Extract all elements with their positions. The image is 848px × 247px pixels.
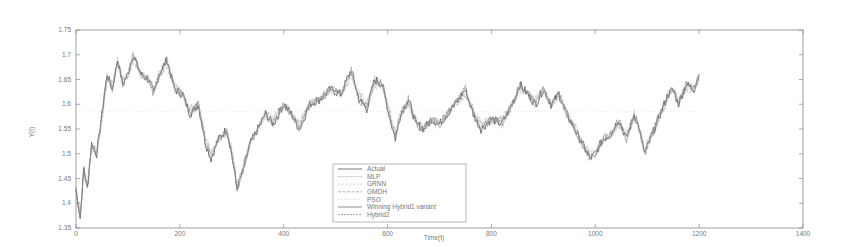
y-tick-label: 1.7 bbox=[62, 51, 71, 58]
x-tick-label: 1000 bbox=[588, 230, 603, 237]
y-tick-label: 1.65 bbox=[58, 76, 71, 83]
legend-entry: GMDH bbox=[367, 188, 387, 195]
x-tick-label: 600 bbox=[382, 230, 393, 237]
x-tick-label: 400 bbox=[278, 230, 289, 237]
x-tick-label: 1200 bbox=[692, 230, 707, 237]
x-tick-label: 0 bbox=[74, 230, 78, 237]
y-tick-label: 1.45 bbox=[58, 175, 71, 182]
y-axis-label: Y(t) bbox=[28, 127, 36, 137]
y-tick-label: 1.75 bbox=[58, 26, 71, 33]
y-tick-label: 1.4 bbox=[62, 199, 71, 206]
legend-entry: PSO bbox=[367, 196, 381, 203]
y-tick-label: 1.35 bbox=[58, 224, 71, 231]
y-tick-label: 1.6 bbox=[62, 100, 71, 107]
y-tick-label: 1.55 bbox=[58, 125, 71, 132]
legend-box bbox=[333, 164, 466, 222]
legend-entry: Hybrid2 bbox=[367, 211, 390, 219]
line-chart: 1.351.41.451.51.551.61.651.71.75 0200400… bbox=[0, 0, 848, 247]
y-tick-label: 1.5 bbox=[62, 150, 71, 157]
x-axis-label: Time(t) bbox=[424, 234, 444, 242]
legend-entry: MLP bbox=[367, 173, 380, 180]
legend: ActualMLPGRNNGMDHPSOWinning Hybrid1 vari… bbox=[333, 164, 466, 222]
x-tick-label: 800 bbox=[486, 230, 497, 237]
x-tick-label: 200 bbox=[174, 230, 185, 237]
x-tick-label: 1400 bbox=[796, 230, 811, 237]
legend-entry: GRNN bbox=[367, 180, 386, 187]
legend-entry: Actual bbox=[367, 165, 386, 172]
